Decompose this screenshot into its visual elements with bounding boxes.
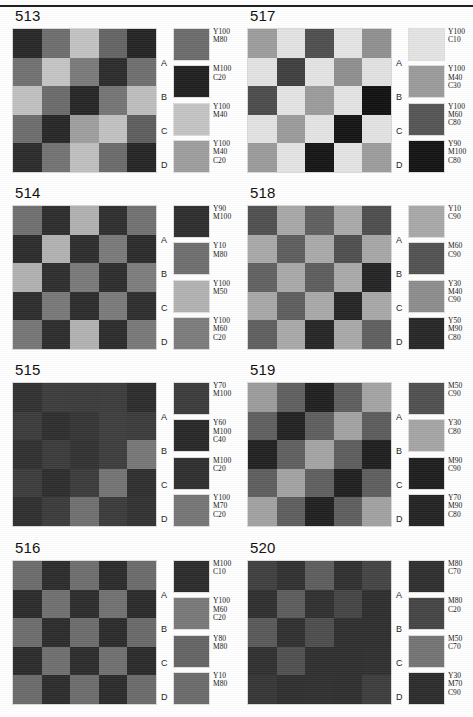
patch-cell — [248, 143, 277, 172]
swatch-label: M100 C20 — [213, 457, 231, 474]
patch-grid — [12, 28, 157, 173]
chart-title: 513 — [15, 8, 242, 25]
patch-cell — [127, 263, 156, 292]
patch-cell — [42, 58, 71, 87]
patch-cell — [305, 469, 334, 498]
swatch-chip — [173, 103, 210, 136]
row-letter-column: ABCD — [157, 28, 172, 173]
row-letter-column: ABCD — [392, 382, 407, 527]
patch-cell — [13, 58, 42, 87]
patch-cell — [127, 383, 156, 412]
chart-title: 516 — [15, 540, 242, 557]
patch-cell — [13, 115, 42, 144]
patch-cell — [99, 115, 128, 144]
patch-grid — [247, 205, 392, 350]
row-letter: A — [161, 412, 167, 422]
patch-cell — [277, 292, 306, 321]
row-letter: D — [161, 337, 168, 347]
patch-cell — [70, 143, 99, 172]
patch-cell — [362, 292, 391, 321]
patch-cell — [362, 143, 391, 172]
swatch-chip — [408, 382, 445, 415]
swatch-label: M100 C10 — [213, 560, 231, 577]
patch-cell — [362, 647, 391, 676]
patch-grid — [247, 560, 392, 705]
row-letter: D — [396, 160, 403, 170]
patch-cell — [334, 440, 363, 469]
patch-cell — [248, 440, 277, 469]
swatch-label: Y90 M100 — [213, 205, 231, 222]
swatch-chip — [408, 635, 445, 668]
row-letter: A — [161, 590, 167, 600]
chart-title: 515 — [15, 362, 242, 379]
chart-body: ABCDY10 C90M60 C90Y30 M40 C90Y50 M90 C80 — [247, 205, 473, 350]
row-letter: A — [396, 58, 402, 68]
patch-cell — [248, 590, 277, 619]
swatch-chip — [173, 317, 210, 350]
row-letter: C — [161, 658, 168, 668]
patch-cell — [42, 618, 71, 647]
patch-cell — [277, 561, 306, 590]
reference-swatch-row: Y100 M60 C80 — [408, 103, 473, 136]
patch-cell — [13, 263, 42, 292]
swatch-label: M50 C70 — [448, 635, 462, 652]
patch-cell — [13, 206, 42, 235]
row-letter: C — [396, 126, 403, 136]
patch-cell — [277, 235, 306, 264]
patch-cell — [99, 320, 128, 349]
patch-cell — [362, 412, 391, 441]
patch-cell — [127, 561, 156, 590]
patch-cell — [127, 206, 156, 235]
patch-cell — [13, 412, 42, 441]
patch-cell — [70, 320, 99, 349]
patch-cell — [305, 383, 334, 412]
row-letter: C — [161, 480, 168, 490]
patch-cell — [70, 86, 99, 115]
page-top-rule — [0, 5, 473, 7]
row-letter: A — [161, 235, 167, 245]
swatch-label: Y30 M70 C90 — [448, 672, 462, 697]
patch-cell — [305, 58, 334, 87]
patch-cell — [70, 115, 99, 144]
chart-title: 518 — [250, 185, 473, 202]
patch-cell — [334, 383, 363, 412]
patch-cell — [362, 115, 391, 144]
patch-cell — [277, 320, 306, 349]
patch-cell — [248, 320, 277, 349]
swatch-chip — [173, 635, 210, 668]
reference-swatch-row: Y10 M80 — [173, 242, 243, 275]
row-letter: B — [161, 446, 167, 456]
swatch-chip — [173, 28, 210, 61]
patch-cell — [99, 469, 128, 498]
patch-cell — [13, 320, 42, 349]
patch-cell — [248, 206, 277, 235]
patch-cell — [70, 263, 99, 292]
patch-cell — [248, 263, 277, 292]
patch-cell — [362, 590, 391, 619]
swatch-chip — [408, 317, 445, 350]
reference-swatch-row: M80 C20 — [408, 597, 473, 630]
swatch-chip — [173, 65, 210, 98]
row-letter: C — [161, 303, 168, 313]
row-letter: C — [396, 658, 403, 668]
swatch-chip — [173, 280, 210, 313]
chart-body: ABCDY70 M100Y60 M100 C40M100 C20Y100 M70… — [12, 382, 242, 527]
swatch-chip — [408, 205, 445, 238]
patch-cell — [277, 469, 306, 498]
patch-cell — [305, 29, 334, 58]
swatch-chip — [408, 457, 445, 490]
row-letter: D — [161, 160, 168, 170]
swatch-chip — [173, 672, 210, 705]
patch-cell — [99, 143, 128, 172]
chart-block-520: 520ABCDM80 C70M80 C20M50 C70Y30 M70 C90 — [247, 540, 473, 705]
swatch-label: Y80 M80 — [213, 635, 227, 652]
patch-cell — [13, 675, 42, 704]
swatch-label: M90 C90 — [448, 457, 462, 474]
patch-cell — [362, 320, 391, 349]
swatch-chip — [173, 597, 210, 630]
swatch-label: Y100 M60 C80 — [448, 103, 465, 128]
chart-block-514: 514ABCDY90 M100Y10 M80Y100 M50Y100 M60 C… — [12, 185, 242, 350]
patch-cell — [99, 618, 128, 647]
reference-swatch-row: Y50 M90 C80 — [408, 317, 473, 350]
patch-cell — [334, 647, 363, 676]
